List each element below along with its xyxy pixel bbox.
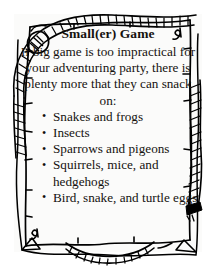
list-item: • Snakes and frogs bbox=[42, 109, 200, 125]
list-item-label: Squirrels, mice, and hedgehogs bbox=[53, 157, 158, 188]
list-item-label: Snakes and frogs bbox=[53, 109, 143, 124]
list-item: • Squirrels, mice, and hedgehogs bbox=[42, 157, 200, 189]
list-item-label: Insects bbox=[53, 125, 90, 140]
bullet-icon: • bbox=[42, 157, 46, 173]
list-item-label: Bird, snake, and turtle eggs bbox=[53, 190, 197, 205]
list-item-label: Sparrows and pigeons bbox=[53, 141, 169, 156]
card-content: Small(er) Game If big game is too imprac… bbox=[16, 26, 200, 244]
list-item: • Bird, snake, and turtle eggs bbox=[42, 190, 200, 206]
card-title: Small(er) Game bbox=[16, 26, 200, 42]
sidebar-card: Small(er) Game If big game is too imprac… bbox=[0, 0, 216, 272]
bullet-icon: • bbox=[42, 125, 46, 141]
intro-paragraph: If big game is too impractical for your … bbox=[16, 44, 200, 109]
list-item: • Sparrows and pigeons bbox=[42, 141, 200, 157]
bullet-icon: • bbox=[42, 108, 46, 124]
bullet-icon: • bbox=[42, 189, 46, 205]
list-item: • Insects bbox=[42, 125, 200, 141]
bullet-icon: • bbox=[42, 141, 46, 157]
snack-list: • Snakes and frogs • Insects • Sparrows … bbox=[16, 109, 200, 206]
